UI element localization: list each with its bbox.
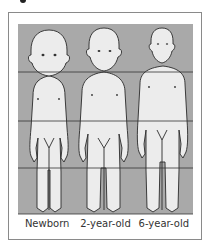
body-proportions-illustration bbox=[0, 0, 211, 250]
age-labels: Newborn 2-year-old 6-year-old bbox=[18, 218, 193, 229]
label-newborn: Newborn bbox=[18, 218, 76, 229]
label-two-year-old: 2-year-old bbox=[76, 218, 134, 229]
label-six-year-old: 6-year-old bbox=[135, 218, 193, 229]
